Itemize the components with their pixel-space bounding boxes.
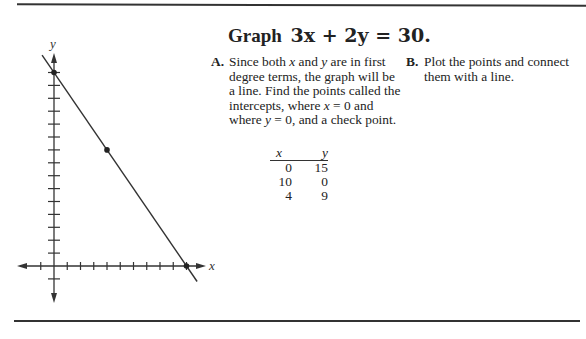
- graph-line: [42, 55, 197, 281]
- x-axis-right-arrow-icon: [196, 263, 206, 269]
- y-axis-up-arrow-icon: [51, 53, 57, 63]
- axes: [17, 53, 206, 303]
- title-equation: 3x + 2y = 30.: [291, 24, 431, 46]
- table-cell-x: 0: [270, 161, 304, 176]
- page-title: Graph 3x + 2y = 30.: [228, 24, 431, 47]
- table-header-y: y: [304, 146, 328, 161]
- table-cell-x: 10: [270, 175, 304, 189]
- table-cell-x: 4: [270, 189, 304, 203]
- table-row: 4 9: [270, 189, 328, 203]
- title-prefix: Graph: [228, 25, 282, 46]
- text-part: = 0, and a check point.: [271, 112, 396, 127]
- y-axis-label: y: [48, 36, 56, 51]
- text-part: Since both: [229, 54, 289, 69]
- step-a: A. Since both x and y are in first degre…: [211, 55, 401, 128]
- table-cell-y: 15: [304, 161, 328, 176]
- plotted-point: [104, 147, 110, 153]
- table-cell-y: 9: [304, 189, 328, 203]
- text-part: and: [295, 54, 321, 69]
- bottom-rule: [14, 320, 580, 322]
- step-b: B. Plot the points and connect them with…: [406, 55, 576, 84]
- x-axis-label: x: [208, 258, 215, 273]
- table-header-x: x: [270, 146, 304, 161]
- step-a-text: Since both x and y are in first degree t…: [229, 55, 401, 128]
- y-axis-down-arrow-icon: [51, 293, 57, 303]
- step-a-letter: A.: [211, 55, 224, 70]
- plotted-point: [51, 70, 57, 76]
- points-table: x y 0 15 10 0 4 9: [270, 146, 328, 203]
- plotted-point: [184, 263, 190, 269]
- step-b-text: Plot the points and connect them with a …: [424, 55, 576, 84]
- table-cell-y: 0: [304, 175, 328, 189]
- x-axis-left-arrow-icon: [17, 263, 27, 269]
- step-b-letter: B.: [406, 55, 418, 70]
- table-row: 0 15: [270, 161, 328, 176]
- table-row: 10 0: [270, 175, 328, 189]
